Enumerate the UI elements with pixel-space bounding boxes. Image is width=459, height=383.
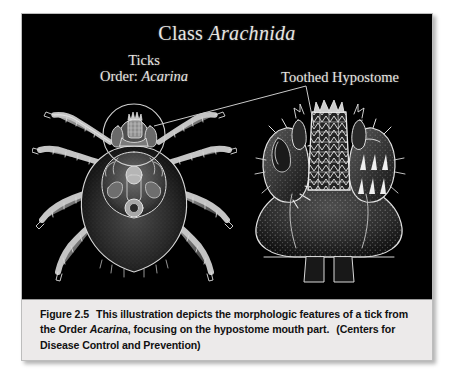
tick-capitulum (111, 112, 157, 147)
class-title: Class Arachnida (22, 22, 432, 45)
order-italic: Acarina (141, 68, 188, 84)
toothed-hypostome-closeup (308, 100, 350, 190)
chelicera-right (334, 257, 354, 282)
illustration-area: Class Arachnida Ticks Order: Acarina Too… (22, 14, 432, 299)
leg-right-1 (159, 112, 225, 142)
tick-capitulum-illustration (234, 94, 424, 284)
hypostome-denticles (314, 100, 344, 112)
class-title-italic: Arachnida (209, 22, 296, 44)
figure-page: Class Arachnida Ticks Order: Acarina Too… (0, 0, 459, 383)
order-prefix: Order: (100, 68, 141, 84)
chelicera-left (304, 257, 324, 282)
leg-left-2 (32, 148, 104, 164)
figure-caption-band: Figure 2.5This illustration depicts the … (22, 299, 432, 360)
toothed-hypostome-label: Toothed Hypostome (250, 69, 430, 86)
ticks-label-line2: Order: Acarina (64, 68, 224, 84)
ticks-label-line1: Ticks (64, 52, 224, 68)
ticks-order-label: Ticks Order: Acarina (64, 52, 224, 84)
caption-italic-term: Acarina (90, 323, 128, 335)
class-title-prefix: Class (158, 22, 208, 44)
figure-number: Figure 2.5 (40, 308, 89, 320)
tick-dorsal-illustration (32, 90, 237, 290)
hypostome-teeth (128, 112, 142, 120)
figure-plate: Class Arachnida Ticks Order: Acarina Too… (21, 13, 433, 361)
figure-caption: Figure 2.5This illustration depicts the … (40, 307, 414, 353)
leg-right-2 (165, 148, 237, 164)
caption-text-part-2: , focusing on the hypostome mouth part. (128, 323, 330, 335)
leg-left-1 (44, 112, 110, 142)
